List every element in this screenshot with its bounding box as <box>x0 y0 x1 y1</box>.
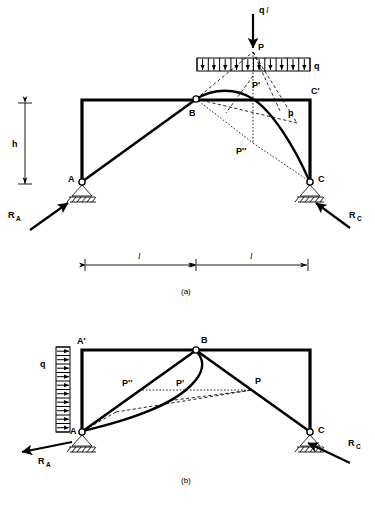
hinge-A-a <box>79 179 85 185</box>
hinge-B-b <box>193 347 199 353</box>
label-span-right-a: l <box>250 251 253 261</box>
label-P-prime-a: P' <box>252 80 260 90</box>
hinge-C-a <box>307 179 313 185</box>
panel-a: q l P q P' C' B p P'' A C R A R C h l l … <box>8 5 362 296</box>
label-A-prime-b: A' <box>77 336 86 346</box>
label-h-a: h <box>12 139 18 149</box>
label-P-prime-b: P' <box>176 378 184 388</box>
label-RA-a: R <box>8 210 15 220</box>
label-RC-b: R <box>348 438 355 448</box>
label-RC-sub-b: C <box>356 443 361 450</box>
strut-BC-b <box>197 351 309 431</box>
label-p-thrust-a: p <box>288 108 294 118</box>
label-B-a: B <box>189 108 196 118</box>
reaction-RA-arrow-a <box>30 203 68 230</box>
span-dimension-a <box>85 259 308 271</box>
height-dimension-a <box>18 103 32 184</box>
label-load-resultant-a: q <box>259 5 265 15</box>
hinge-B-a <box>193 96 199 102</box>
frame-structure-b <box>82 350 310 432</box>
label-P-b: P <box>255 376 261 386</box>
label-A-a: A <box>68 174 75 184</box>
label-RA-sub-b: A <box>46 461 51 468</box>
reaction-RC-arrow-a <box>316 203 350 228</box>
frame-structure-a <box>82 100 310 182</box>
reaction-RC-arrow-b <box>308 443 350 463</box>
hinge-C-b <box>307 429 313 435</box>
label-P-double-prime-b: P'' <box>122 378 132 388</box>
panel-b: q A' B P'' P' P A C R A R C (b) <box>22 335 361 485</box>
caption-b: (b) <box>181 476 191 485</box>
reaction-RA-arrow-b <box>22 442 72 452</box>
label-RC-sub-a: C <box>357 215 362 222</box>
support-A-a <box>67 185 96 202</box>
distributed-load-bar-a <box>197 58 310 71</box>
construction-lines-b <box>83 351 252 431</box>
hinge-A-b <box>79 429 85 435</box>
label-C-b: C <box>318 425 325 435</box>
distributed-load-bar-b <box>56 347 70 432</box>
label-RA-b: R <box>38 456 45 466</box>
label-A-b: A <box>70 426 77 436</box>
label-P-a: P <box>258 42 264 52</box>
support-C-a <box>295 185 324 202</box>
support-A-b <box>67 435 96 452</box>
thrust-curve-a <box>196 91 309 180</box>
label-C-prime-a: C' <box>311 86 320 96</box>
label-P-double-prime-a: P'' <box>236 146 246 156</box>
label-C-a: C <box>318 174 325 184</box>
figure-root: q l P q P' C' B p P'' A C R A R C h l l … <box>0 0 375 506</box>
engineering-diagram-svg: q l P q P' C' B p P'' A C R A R C h l l … <box>0 0 375 506</box>
label-RA-sub-a: A <box>16 215 21 222</box>
label-B-b: B <box>201 335 208 345</box>
strut-AB-a <box>83 100 195 181</box>
label-q-b: q <box>40 359 46 369</box>
label-load-resultant-l-a: l <box>266 5 269 15</box>
label-q-a: q <box>314 61 320 71</box>
label-RC-a: R <box>349 210 356 220</box>
caption-a: (a) <box>181 287 191 296</box>
label-span-left-a: l <box>138 251 141 261</box>
